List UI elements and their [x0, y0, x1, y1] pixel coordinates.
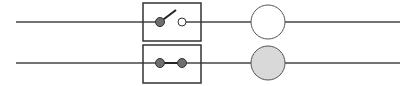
lamp-on-icon [251, 46, 285, 80]
diagram-canvas [0, 0, 418, 86]
circuit-open-switch [16, 3, 400, 41]
circuit-diagram [0, 0, 418, 86]
lamp-off-icon [251, 5, 285, 39]
open-contact-icon [178, 18, 186, 26]
circuit-closed-switch [16, 45, 400, 83]
pivot-contact-icon [156, 18, 165, 27]
contact-right-icon [178, 59, 187, 68]
contact-left-icon [156, 59, 165, 68]
